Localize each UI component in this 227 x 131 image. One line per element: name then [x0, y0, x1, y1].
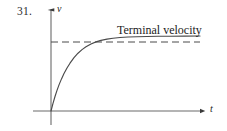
y-axis-label: v: [57, 3, 61, 14]
figure-container: 31. v t Terminal velocity: [0, 0, 227, 131]
terminal-velocity-label: Terminal velocity: [117, 23, 202, 37]
velocity-curve: [51, 36, 200, 111]
velocity-time-graph: [0, 0, 227, 131]
x-axis-label: t: [210, 103, 213, 114]
